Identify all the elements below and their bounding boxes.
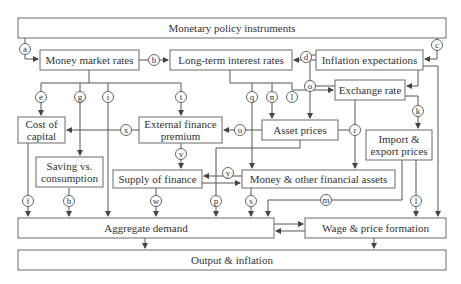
svg-text:q: q	[250, 92, 255, 102]
channel-y: y	[223, 168, 234, 179]
channel-i: i	[103, 92, 114, 103]
box-money-market-rates: Money market rates	[40, 50, 139, 70]
label-cost-of-capital-1: Cost of	[25, 118, 57, 130]
svg-text:k: k	[416, 106, 421, 116]
channel-r: r	[350, 125, 361, 136]
svg-text:a: a	[23, 44, 27, 54]
channel-b: b	[149, 55, 160, 66]
svg-text:e: e	[39, 92, 43, 102]
channel-q: q	[247, 92, 258, 103]
label-efp-1: External finance	[144, 118, 216, 130]
svg-text:d: d	[304, 52, 309, 62]
label-asset-prices: Asset prices	[273, 124, 326, 136]
box-asset-prices: Asset prices	[262, 120, 338, 140]
svg-text:x: x	[124, 125, 129, 135]
box-import-export-prices: Import & export prices	[366, 130, 432, 160]
svg-text:r: r	[354, 125, 357, 135]
box-cost-of-capital: Cost of capital	[18, 117, 65, 143]
label-cost-of-capital-2: capital	[27, 130, 56, 142]
channel-h: h	[64, 196, 75, 207]
svg-text:p: p	[214, 196, 219, 206]
box-wage-price-formation: Wage & price formation	[305, 218, 446, 238]
svg-text:w: w	[153, 196, 160, 206]
svg-text:v: v	[179, 149, 184, 159]
label-long-term: Long-term interest rates	[178, 54, 284, 66]
channel-p: p	[211, 196, 222, 207]
channel-w: w	[151, 196, 162, 207]
label-import-export-2: export prices	[370, 145, 427, 157]
channel-l-upper: l	[287, 92, 298, 103]
svg-text:m: m	[322, 195, 329, 205]
channel-x: x	[121, 125, 132, 136]
label-saving-1: Saving vs.	[47, 160, 93, 172]
label-aggregate-demand: Aggregate demand	[104, 222, 188, 234]
svg-text:s: s	[249, 196, 253, 206]
channel-g: g	[75, 92, 86, 103]
box-supply-of-finance: Supply of finance	[113, 170, 202, 188]
label-output-inflation: Output & inflation	[191, 254, 273, 266]
label-exchange-rate: Exchange rate	[339, 84, 402, 96]
channel-s: s	[246, 196, 257, 207]
channel-n: n	[267, 92, 278, 103]
box-output-inflation: Output & inflation	[18, 250, 446, 270]
box-monetary-policy-instruments: Monetary policy instruments	[18, 18, 446, 38]
channel-v: v	[176, 149, 187, 160]
label-supply-of-finance: Supply of finance	[118, 173, 196, 185]
svg-text:b: b	[152, 55, 157, 65]
svg-text:y: y	[226, 168, 231, 178]
channel-e: e	[36, 92, 47, 103]
channel-k: k	[413, 106, 424, 117]
svg-text:n: n	[270, 92, 275, 102]
channel-t: t	[176, 92, 187, 103]
channel-u: u	[235, 125, 246, 136]
channel-m: m	[321, 195, 332, 206]
label-efp-2: premium	[161, 130, 201, 142]
label-import-export-1: Import &	[378, 133, 420, 145]
box-money-other-financial-assets: Money & other financial assets	[242, 170, 395, 188]
label-inflation-expectations: Inflation expectations	[322, 54, 418, 66]
label-money-market: Money market rates	[46, 54, 134, 66]
svg-text:u: u	[238, 125, 243, 135]
svg-text:c: c	[435, 40, 439, 50]
label-instruments: Monetary policy instruments	[168, 22, 295, 34]
channel-o: o	[305, 81, 316, 92]
box-external-finance-premium: External finance premium	[139, 117, 222, 143]
channel-d: d	[301, 52, 312, 63]
channel-a: a	[20, 44, 31, 55]
svg-text:o: o	[308, 81, 313, 91]
box-saving-vs-consumption: Saving vs. consumption	[36, 157, 103, 187]
box-aggregate-demand: Aggregate demand	[18, 218, 274, 238]
transmission-diagram: Monetary policy instruments Money market…	[0, 0, 461, 284]
label-wage-price: Wage & price formation	[322, 222, 429, 234]
box-exchange-rate: Exchange rate	[335, 80, 405, 100]
channel-f: f	[23, 196, 34, 207]
label-saving-2: consumption	[41, 172, 98, 184]
box-inflation-expectations: Inflation expectations	[316, 50, 423, 70]
channel-c: c	[432, 40, 443, 51]
label-money-assets: Money & other financial assets	[250, 173, 387, 185]
channel-l-lower: l	[411, 196, 422, 207]
svg-text:h: h	[67, 196, 72, 206]
svg-text:f: f	[27, 196, 30, 206]
svg-text:g: g	[78, 92, 83, 102]
box-long-term-interest-rates: Long-term interest rates	[170, 50, 292, 70]
